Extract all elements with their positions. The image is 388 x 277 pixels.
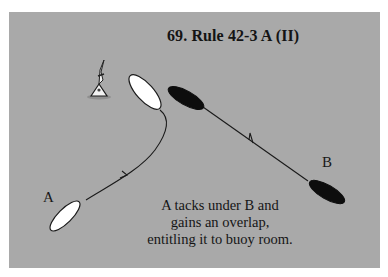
boat-b-label: B: [322, 154, 332, 171]
boat-a-track-arrow-icon: [120, 171, 127, 178]
buoy-icon: [87, 60, 111, 100]
caption-line: entitling it to buoy room.: [130, 231, 310, 248]
figure-title: 69. Rule 42-3 A (II): [167, 27, 299, 45]
boat-a-label: A: [43, 189, 54, 206]
boat-a-track: [86, 110, 166, 200]
boat-b-track: [203, 107, 308, 181]
caption-line: A tacks under B and: [130, 197, 310, 214]
boat-a-upper: [124, 70, 166, 114]
boat-b-lower: [306, 176, 348, 208]
figure-caption: A tacks under B and gains an overlap, en…: [130, 197, 310, 248]
caption-line: gains an overlap,: [130, 214, 310, 231]
boat-b-upper: [165, 82, 207, 114]
